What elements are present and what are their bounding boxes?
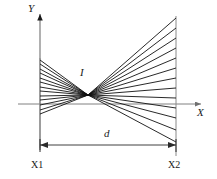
ray-fan-right bbox=[88, 18, 176, 142]
dimension-arrow-right bbox=[168, 142, 176, 148]
dimension-arrow-left bbox=[40, 142, 48, 148]
station-label-x2: X2 bbox=[168, 160, 180, 170]
ray-diagram-figure: Y X I d X1 X2 bbox=[0, 0, 217, 179]
ray-diagram-canvas bbox=[0, 0, 217, 179]
station-label-x1: X1 bbox=[31, 160, 43, 170]
focus-point-label: I bbox=[80, 67, 84, 78]
x-axis-label: X bbox=[197, 107, 204, 118]
station-tick-caps bbox=[40, 139, 176, 152]
y-axis-label: Y bbox=[28, 3, 34, 14]
dimension-line-d bbox=[40, 142, 176, 148]
distance-label-d: d bbox=[104, 128, 110, 139]
